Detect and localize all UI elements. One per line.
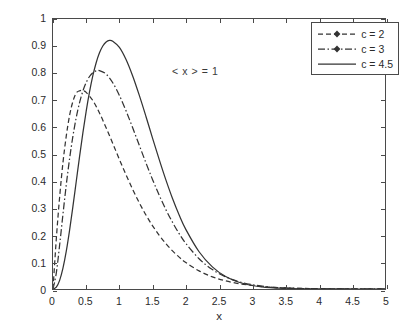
y-tick-mark <box>53 209 57 210</box>
x-tick-mark <box>86 285 87 289</box>
y-tick-mark <box>53 155 57 156</box>
y-tick-label: 0.9 <box>4 39 46 51</box>
y-tick-label: 0.6 <box>4 121 46 133</box>
y-tick-label: 0.3 <box>4 202 46 214</box>
x-tick-label: 4.5 <box>345 295 360 307</box>
x-axis-title: x <box>52 310 386 322</box>
y-tick-mark <box>53 236 57 237</box>
legend-item[interactable]: c = 2 <box>316 26 393 41</box>
chart-figure: Probability density function x 00.10.20.… <box>0 0 408 329</box>
y-tick-label: 0.4 <box>4 175 46 187</box>
y-tick-mark <box>381 263 385 264</box>
x-tick-mark <box>286 19 287 23</box>
legend-line-sample <box>316 58 358 70</box>
y-tick-mark <box>53 73 57 74</box>
x-tick-mark <box>186 19 187 23</box>
y-tick-mark <box>381 291 385 292</box>
x-tick-label: 1.5 <box>145 295 160 307</box>
y-tick-label: 0.1 <box>4 257 46 269</box>
y-tick-mark <box>53 127 57 128</box>
y-tick-mark <box>53 100 57 101</box>
x-tick-label: 2.5 <box>212 295 227 307</box>
x-tick-mark <box>119 19 120 23</box>
x-tick-label: 3.5 <box>278 295 293 307</box>
y-tick-mark <box>53 19 57 20</box>
x-tick-label: 1 <box>116 295 122 307</box>
legend-label: c = 4.5 <box>361 58 393 70</box>
x-tick-mark <box>353 285 354 289</box>
x-tick-mark <box>253 285 254 289</box>
y-tick-mark <box>53 182 57 183</box>
y-tick-mark <box>381 209 385 210</box>
x-tick-label: 0 <box>49 295 55 307</box>
curve-series-1 <box>53 90 385 289</box>
x-tick-label: 3 <box>249 295 255 307</box>
y-tick-label: 0.5 <box>4 148 46 160</box>
x-tick-mark <box>286 285 287 289</box>
x-tick-mark <box>320 285 321 289</box>
x-tick-mark <box>186 285 187 289</box>
y-tick-label: 0.8 <box>4 66 46 78</box>
legend-marker-icon <box>334 45 341 52</box>
legend-marker-icon <box>334 30 341 37</box>
x-tick-mark <box>220 285 221 289</box>
x-tick-label: 0.5 <box>78 295 93 307</box>
y-tick-mark <box>381 236 385 237</box>
y-tick-mark <box>381 19 385 20</box>
y-tick-label: 0 <box>4 284 46 296</box>
y-tick-mark <box>53 46 57 47</box>
y-tick-mark <box>381 100 385 101</box>
legend: c = 2c = 3c = 4.5 <box>311 22 399 75</box>
legend-line-sample <box>316 28 358 40</box>
y-tick-label: 0.2 <box>4 230 46 242</box>
curve-series-2 <box>53 70 385 289</box>
legend-label: c = 2 <box>361 28 384 40</box>
x-tick-mark <box>119 285 120 289</box>
y-tick-label: 0.7 <box>4 94 46 106</box>
y-tick-mark <box>381 127 385 128</box>
y-tick-mark <box>53 263 57 264</box>
x-tick-label: 4 <box>316 295 322 307</box>
y-tick-mark <box>381 155 385 156</box>
y-tick-mark <box>381 182 385 183</box>
curve-series-3 <box>53 40 385 289</box>
mean-annotation: < x > = 1 <box>172 65 219 77</box>
x-tick-label: 5 <box>383 295 389 307</box>
y-tick-label: 1 <box>4 12 46 24</box>
x-tick-mark <box>53 19 54 23</box>
legend-item[interactable]: c = 4.5 <box>316 56 393 71</box>
x-tick-mark <box>53 285 54 289</box>
x-tick-mark <box>253 19 254 23</box>
x-tick-label: 2 <box>183 295 189 307</box>
y-tick-mark <box>53 291 57 292</box>
legend-item[interactable]: c = 3 <box>316 41 393 56</box>
legend-line-sample <box>316 43 358 55</box>
x-tick-mark <box>220 19 221 23</box>
legend-label: c = 3 <box>361 43 384 55</box>
x-tick-mark <box>86 19 87 23</box>
x-tick-mark <box>153 285 154 289</box>
x-tick-mark <box>153 19 154 23</box>
x-tick-mark <box>387 285 388 289</box>
